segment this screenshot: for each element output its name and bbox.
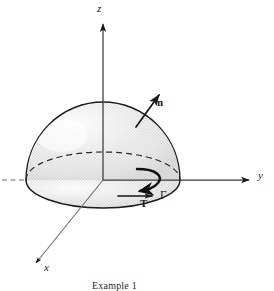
z-axis-label: z (97, 3, 101, 14)
normal-vector-label: n (157, 97, 163, 108)
y-axis-label: y (258, 170, 263, 181)
x-axis-label: x (44, 262, 49, 273)
figure-caption: Example 1 (92, 281, 137, 291)
boundary-curve-label: Γ (160, 190, 167, 202)
tangent-vector-label: T (140, 198, 147, 209)
